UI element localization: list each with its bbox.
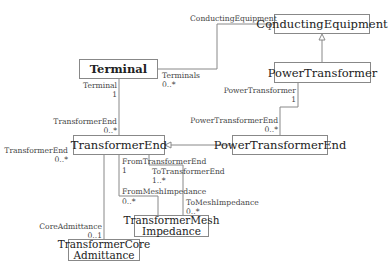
role-label: FromMeshImpedance <box>122 187 206 196</box>
role-label: ToTransformerEnd <box>152 167 225 176</box>
role-label: PowerTransformer <box>210 86 296 95</box>
role-label: PowerTransformerEnd <box>190 116 278 125</box>
role-label: ConductingEquipment <box>190 14 272 23</box>
class-name-line2: Admittance <box>73 250 134 261</box>
multiplicity-label: 0..* <box>186 207 199 216</box>
multiplicity-label: 0..* <box>122 197 135 206</box>
class-conducting-equipment[interactable]: ConductingEquipment <box>274 14 370 34</box>
role-label: TransformerEnd <box>0 146 68 155</box>
multiplicity-label: 0..* <box>0 155 68 164</box>
class-terminal[interactable]: Terminal <box>79 59 158 79</box>
multiplicity-label: 1 <box>70 90 117 99</box>
multiplicity-label: 0..1 <box>20 231 102 240</box>
multiplicity-label: 0..* <box>190 125 278 134</box>
class-power-transformer[interactable]: PowerTransformer <box>274 62 371 83</box>
class-name: Terminal <box>90 63 147 75</box>
class-transformer-mesh-impedance[interactable]: TransformerMesh Impedance <box>134 215 209 237</box>
multiplicity-label: 0..* <box>40 126 117 135</box>
class-transformer-end[interactable]: TransformerEnd <box>73 135 165 155</box>
multiplicity-label: 1 <box>250 23 272 32</box>
role-label: Terminal <box>70 81 117 90</box>
class-power-transformer-end[interactable]: PowerTransformerEnd <box>232 135 328 155</box>
multiplicity-label: 1 <box>122 166 127 175</box>
class-name: PowerTransformer <box>268 67 378 79</box>
class-transformer-core-admittance[interactable]: TransformerCore Admittance <box>68 239 140 261</box>
role-label: ToMeshImpedance <box>186 198 259 207</box>
multiplicity-label: 0..* <box>162 80 175 89</box>
role-label: FromTransformerEnd <box>122 157 206 166</box>
class-name-line2: Impedance <box>142 226 201 237</box>
multiplicity-label: 1..* <box>152 176 165 185</box>
multiplicity-label: 1 <box>210 95 296 104</box>
role-label: TransformerEnd <box>40 117 117 126</box>
class-name: PowerTransformerEnd <box>214 139 347 151</box>
role-label: Terminals <box>162 71 200 80</box>
role-label: CoreAdmittance <box>20 222 102 231</box>
class-name: TransformerEnd <box>71 139 167 151</box>
inheritance-arrow-icon <box>319 34 325 40</box>
